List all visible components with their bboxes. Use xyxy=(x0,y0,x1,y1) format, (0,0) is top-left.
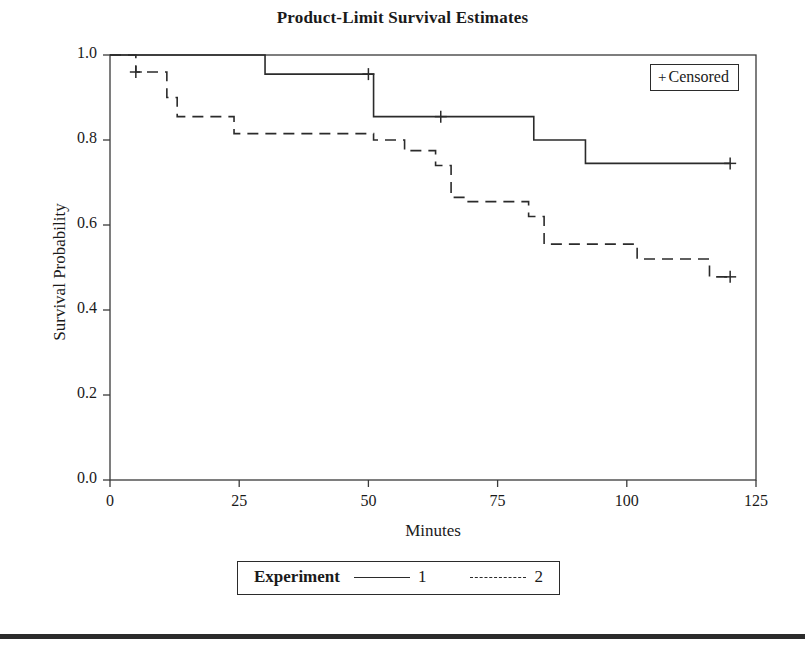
legend-title: Experiment xyxy=(254,567,354,587)
censor-plus-icon: + xyxy=(658,69,668,85)
survival-curve-2 xyxy=(110,55,730,277)
censor-marks-layer xyxy=(130,66,736,283)
censor-mark-icon xyxy=(362,68,374,80)
censor-mark-icon xyxy=(724,157,736,169)
x-tick-label: 100 xyxy=(597,492,657,510)
legend-line-dashed-icon xyxy=(470,577,526,578)
x-tick-label: 25 xyxy=(209,492,269,510)
x-tick-label: 75 xyxy=(468,492,528,510)
series-layer xyxy=(110,55,730,277)
y-tick-label: 0.0 xyxy=(51,469,97,487)
legend-label-2: 2 xyxy=(534,567,543,587)
x-tick-label: 125 xyxy=(726,492,786,510)
experiment-legend-box: Experiment 1 2 xyxy=(237,561,560,595)
legend-entry-2: 2 xyxy=(426,567,543,587)
legend-line-solid-icon xyxy=(354,577,410,578)
axis-frame xyxy=(110,55,756,480)
survival-chart-figure: Product-Limit Survival Estimates 0.00.20… xyxy=(0,0,805,655)
x-tick-label: 50 xyxy=(338,492,398,510)
censor-mark-icon xyxy=(435,111,447,123)
x-axis-title: Minutes xyxy=(110,521,756,541)
legend-label-1: 1 xyxy=(418,567,427,587)
censored-legend-box: +Censored xyxy=(650,64,739,91)
censored-legend-label: Censored xyxy=(668,68,728,85)
legend-entry-1: 1 xyxy=(354,567,427,587)
tick-marks xyxy=(103,55,756,487)
survival-curve-1 xyxy=(110,55,730,163)
plot-canvas xyxy=(0,0,805,655)
y-tick-label: 1.0 xyxy=(51,44,97,62)
censor-mark-icon xyxy=(724,271,736,283)
x-tick-label: 0 xyxy=(80,492,140,510)
footer-divider xyxy=(0,634,805,639)
y-axis-title: Survival Probability xyxy=(50,107,70,437)
censor-mark-icon xyxy=(130,66,142,78)
